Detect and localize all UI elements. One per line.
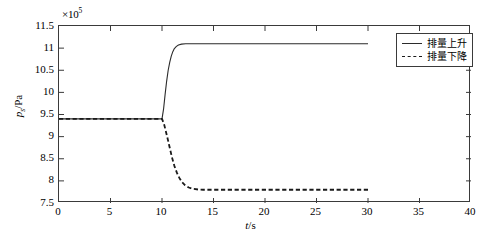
x-axis-tick-label: 20 (244, 205, 284, 217)
y-axis-title: ps/Pa (12, 76, 24, 136)
legend-entry-label: 排量上升 (427, 37, 467, 50)
legend-line-sample-dashed (401, 50, 423, 63)
x-axis-tick-label: 25 (296, 205, 336, 217)
x-axis-tick-label: 10 (141, 205, 181, 217)
legend-entry[interactable]: 排量下降 (401, 50, 467, 63)
series-line-0 (59, 44, 368, 119)
y-axis-tick-label: 9 (2, 130, 54, 141)
legend-entry-label: 排量下降 (427, 50, 467, 63)
y-axis-exponent-base: ×10 (62, 8, 79, 20)
y-axis-title-subscript: s (18, 109, 27, 112)
y-axis-tick-label: 8.5 (2, 152, 54, 163)
y-axis-tick-label: 10.5 (2, 64, 54, 75)
series-line-1 (59, 119, 368, 190)
y-axis-exponent-label: ×105 (62, 8, 82, 20)
x-axis-title: t/s (0, 219, 501, 231)
x-axis-tick-label: 15 (193, 205, 233, 217)
x-axis-tick-label: 30 (347, 205, 387, 217)
y-axis-tick-label: 11.5 (2, 20, 54, 31)
y-axis-title-unit: /Pa (12, 95, 24, 109)
legend-entry[interactable]: 排量上升 (401, 37, 467, 50)
y-axis-exponent-power: 5 (79, 6, 83, 15)
x-axis-tick-label: 40 (450, 205, 490, 217)
y-axis-title-var: p (12, 112, 24, 118)
x-axis-tick-label: 35 (399, 205, 439, 217)
x-axis-tick-label: 5 (90, 205, 130, 217)
figure-canvas: ×105 7.588.599.51010.51111.5 ps/Pa 05101… (0, 0, 501, 248)
x-axis-tick-label: 0 (38, 205, 78, 217)
y-axis-tick-label: 9.5 (2, 108, 54, 119)
y-axis-tick-label: 10 (2, 86, 54, 97)
y-axis-tick-label: 11 (2, 42, 54, 53)
y-axis-tick-label: 8 (2, 174, 54, 185)
legend-box: 排量上升排量下降 (396, 33, 473, 67)
x-axis-title-unit: /s (248, 219, 255, 231)
legend-line-sample-solid (401, 37, 423, 50)
